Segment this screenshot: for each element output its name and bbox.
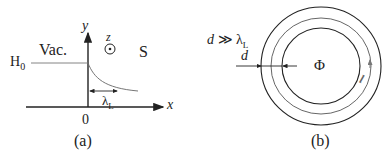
axis-x-label: x bbox=[167, 98, 173, 112]
h0-subscript: 0 bbox=[20, 61, 25, 72]
lambda-subscript: L bbox=[108, 101, 114, 111]
region-superconductor-label: S bbox=[139, 44, 148, 60]
diagram-canvas bbox=[0, 0, 392, 158]
axis-z-label: z bbox=[106, 31, 111, 43]
flux-label: Φ bbox=[314, 58, 325, 73]
panel-b-graphics bbox=[236, 7, 381, 125]
condition-operator: ≫ bbox=[218, 32, 233, 47]
condition-lambda: λ bbox=[236, 32, 243, 47]
h0-symbol: H bbox=[10, 54, 20, 69]
panel-b-caption: (b) bbox=[311, 133, 330, 149]
lambda-l-label: λL bbox=[102, 94, 114, 111]
origin-label: 0 bbox=[82, 113, 89, 127]
region-vacuum-label: Vac. bbox=[39, 42, 67, 58]
axis-y-label: y bbox=[82, 19, 88, 33]
h0-label: H0 bbox=[10, 55, 25, 72]
panel-a-caption: (a) bbox=[74, 133, 92, 149]
condition-d: d bbox=[207, 32, 214, 47]
thickness-d-label: d bbox=[241, 49, 248, 63]
field-decay-curve bbox=[88, 63, 138, 91]
